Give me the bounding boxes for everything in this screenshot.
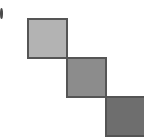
left-edge-glyph-icon	[0, 8, 3, 19]
diagonal-square-3	[105, 96, 144, 137]
diagonal-square-2	[66, 57, 107, 98]
figure-canvas	[0, 0, 144, 140]
diagonal-square-1	[27, 18, 68, 59]
